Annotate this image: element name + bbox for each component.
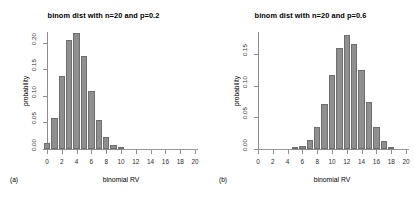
- panel-a-x-axis-label: binomial RV: [47, 176, 195, 183]
- x-axis-tick: [406, 150, 407, 154]
- x-axis-tick: [195, 150, 196, 154]
- histogram-bar: [358, 70, 364, 149]
- x-axis-tick-label: 4: [281, 159, 295, 165]
- panel-a-y-axis-label: probability: [22, 32, 29, 150]
- panel-b-plot-area: 0.000.050.100.1502468101214161820: [258, 32, 406, 150]
- x-axis-tick: [165, 150, 166, 154]
- panel-b-y-axis-label: probability: [233, 32, 240, 150]
- y-axis-tick-label: 0.20: [31, 33, 37, 45]
- x-axis-tick: [317, 150, 318, 154]
- x-axis-tick: [288, 150, 289, 154]
- y-axis-tick: [43, 96, 47, 97]
- y-axis-tick: [43, 122, 47, 123]
- y-axis-tick-label: 0.10: [31, 86, 37, 98]
- x-axis-tick-label: 8: [310, 159, 324, 165]
- histogram-bar: [118, 147, 124, 149]
- histogram-bar: [344, 35, 350, 149]
- panel-a-caption: (a): [10, 176, 18, 183]
- x-axis-tick-label: 16: [158, 159, 172, 165]
- histogram-bar: [373, 127, 379, 149]
- y-axis-tick: [254, 54, 258, 55]
- panel-b-bars: [258, 32, 406, 149]
- x-axis-tick-label: 18: [384, 159, 398, 165]
- histogram-bar: [329, 75, 335, 149]
- x-axis-tick: [151, 150, 152, 154]
- histogram-bar: [59, 76, 65, 149]
- panel-b-x-axis-label: binomial RV: [258, 176, 406, 183]
- x-axis-tick-label: 0: [40, 159, 54, 165]
- panel-a-bars: [47, 32, 195, 149]
- panel-a: binom dist with n=20 and p=0.2 probabili…: [0, 0, 207, 201]
- x-axis-tick: [121, 150, 122, 154]
- x-axis-tick-label: 12: [129, 159, 143, 165]
- histogram-bar: [314, 127, 320, 149]
- x-axis-tick: [391, 150, 392, 154]
- histogram-bar: [88, 91, 94, 149]
- x-axis-tick: [62, 150, 63, 154]
- histogram-bar: [292, 147, 298, 149]
- x-axis-tick: [77, 150, 78, 154]
- y-axis-tick-label: 0.00: [31, 139, 37, 151]
- x-axis-tick: [273, 150, 274, 154]
- histogram-bar: [307, 140, 313, 149]
- y-axis-tick-label: 0.10: [242, 76, 248, 88]
- panel-b-caption: (b): [219, 176, 227, 183]
- histogram-bar: [103, 137, 109, 149]
- histogram-bar: [321, 104, 327, 149]
- y-axis-tick-label: 0.15: [242, 44, 248, 56]
- x-axis-tick: [47, 150, 48, 154]
- histogram-bar: [110, 145, 116, 149]
- y-axis-tick: [254, 86, 258, 87]
- x-axis-tick-label: 8: [99, 159, 113, 165]
- y-axis-tick: [254, 117, 258, 118]
- x-axis-tick: [180, 150, 181, 154]
- x-axis-tick-label: 16: [369, 159, 383, 165]
- y-axis-tick-label: 0.00: [242, 139, 248, 151]
- x-axis-tick-label: 2: [266, 159, 280, 165]
- x-axis-tick: [376, 150, 377, 154]
- histogram-bar: [73, 33, 79, 149]
- panel-a-plot-area: 0.000.050.100.150.2002468101214161820: [47, 32, 195, 150]
- x-axis-tick: [347, 150, 348, 154]
- histogram-bar: [299, 146, 305, 149]
- y-axis-tick-label: 0.15: [31, 59, 37, 71]
- x-axis-tick-label: 2: [55, 159, 69, 165]
- x-axis-tick-label: 4: [70, 159, 84, 165]
- histogram-bar: [51, 118, 57, 149]
- x-axis-tick: [136, 150, 137, 154]
- histogram-bar: [381, 141, 387, 149]
- x-axis-tick-label: 6: [84, 159, 98, 165]
- x-axis-tick: [91, 150, 92, 154]
- y-axis-tick-label: 0.05: [242, 107, 248, 119]
- histogram-bar: [388, 147, 394, 149]
- x-axis-tick: [258, 150, 259, 154]
- x-axis-tick: [106, 150, 107, 154]
- histogram-bar: [96, 120, 102, 149]
- histogram-bar: [366, 102, 372, 149]
- y-axis-tick-label: 0.05: [31, 112, 37, 124]
- x-axis-tick-label: 20: [188, 159, 202, 165]
- x-axis-tick-label: 20: [399, 159, 413, 165]
- x-axis-tick-label: 6: [295, 159, 309, 165]
- y-axis-tick: [43, 43, 47, 44]
- binomial-distribution-figure: binom dist with n=20 and p=0.2 probabili…: [0, 0, 414, 201]
- x-axis-tick-label: 14: [144, 159, 158, 165]
- x-axis-tick-label: 10: [325, 159, 339, 165]
- x-axis-tick-label: 18: [173, 159, 187, 165]
- x-axis-tick-label: 14: [355, 159, 369, 165]
- histogram-bar: [66, 40, 72, 149]
- histogram-bar: [81, 56, 87, 149]
- panel-a-title: binom dist with n=20 and p=0.2: [0, 11, 207, 20]
- histogram-bar: [336, 48, 342, 149]
- histogram-bar: [351, 44, 357, 149]
- panel-b: binom dist with n=20 and p=0.6 probabili…: [207, 0, 414, 201]
- x-axis-tick: [332, 150, 333, 154]
- panel-b-title: binom dist with n=20 and p=0.6: [207, 11, 414, 20]
- x-axis-tick: [362, 150, 363, 154]
- x-axis-tick-label: 12: [340, 159, 354, 165]
- x-axis-tick: [302, 150, 303, 154]
- x-axis-tick-label: 0: [251, 159, 265, 165]
- x-axis-tick-label: 10: [114, 159, 128, 165]
- y-axis-tick: [43, 69, 47, 70]
